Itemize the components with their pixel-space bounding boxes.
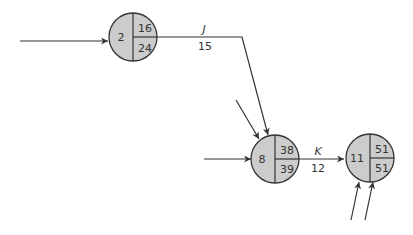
activity-j-duration: 15 — [198, 40, 212, 53]
network-diagram: J 15 K 12 2 16 24 8 38 39 11 51 51 — [0, 0, 413, 235]
node-2-late-start: 24 — [138, 42, 152, 55]
node-2: 2 16 24 — [109, 13, 157, 61]
incoming-arrow-node-8-diagonal — [236, 100, 259, 139]
incoming-arrow-node-11-b — [365, 182, 373, 220]
node-2-id: 2 — [118, 31, 125, 44]
node-8-late-start: 39 — [280, 163, 294, 176]
node-8-id: 8 — [259, 153, 266, 166]
activity-j-arrow — [157, 37, 268, 135]
node-11-early-start: 51 — [375, 143, 389, 156]
node-8-early-start: 38 — [280, 144, 294, 157]
node-11-late-start: 51 — [375, 162, 389, 175]
node-8: 8 38 39 — [251, 135, 299, 183]
activity-k-duration: 12 — [311, 162, 325, 175]
activity-j-name: J — [200, 23, 205, 36]
incoming-arrow-node-11-a — [351, 182, 359, 220]
node-11-id: 11 — [350, 152, 364, 165]
activity-k-name: K — [314, 145, 322, 158]
node-11: 11 51 51 — [346, 134, 394, 182]
node-2-early-start: 16 — [138, 22, 152, 35]
